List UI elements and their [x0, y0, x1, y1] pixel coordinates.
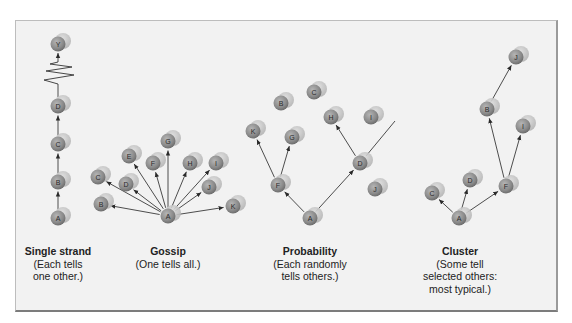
svg-text:D: D	[467, 177, 472, 184]
node-single-strand-Y: Y	[51, 33, 72, 52]
svg-text:F: F	[504, 183, 508, 190]
svg-text:Y: Y	[56, 41, 61, 48]
caption-description: (Some tell	[405, 258, 515, 271]
node-probability-G: G	[285, 126, 306, 145]
svg-text:I: I	[522, 123, 524, 130]
caption-gossip: Gossip(One tells all.)	[113, 245, 223, 270]
node-single-strand-B: B	[51, 171, 72, 190]
caption-description: (Each tells	[3, 258, 113, 271]
node-probability-I: I	[364, 106, 385, 125]
edge-probability-D-to-H	[336, 125, 355, 156]
svg-text:F: F	[151, 160, 155, 167]
svg-text:K: K	[231, 203, 236, 210]
svg-text:C: C	[95, 174, 100, 181]
edge-gossip-A-to-D	[134, 190, 162, 211]
node-probability-C: C	[307, 81, 328, 100]
node-cluster-C: C	[425, 182, 446, 201]
edge-probability-F-to-G	[280, 146, 289, 177]
svg-text:A: A	[457, 215, 462, 222]
svg-text:H: H	[187, 160, 192, 167]
node-gossip-A: A	[161, 205, 182, 224]
node-probability-H: H	[324, 106, 345, 125]
edge-cluster-A-to-D	[461, 189, 467, 210]
svg-text:B: B	[279, 100, 284, 107]
svg-text:A: A	[166, 213, 171, 220]
nodes-layer: ABCDYABCDEFGHIJKAFKGBCDHIJACDFBIJ	[51, 33, 537, 226]
edge-cluster-B-to-J	[491, 65, 511, 101]
caption-description: tells others.)	[255, 270, 365, 283]
node-cluster-A: A	[452, 207, 473, 226]
edge-probability-F-to-K	[257, 140, 274, 178]
edge-cluster-F-to-I	[508, 135, 520, 178]
svg-text:B: B	[99, 201, 104, 208]
edge-probability-A-to-D	[316, 170, 354, 212]
node-gossip-C: C	[91, 166, 112, 185]
node-gossip-I: I	[209, 152, 230, 171]
svg-text:G: G	[165, 138, 170, 145]
node-single-strand-A: A	[51, 207, 72, 226]
zigzag-break-icon	[44, 60, 74, 90]
caption-title: Single strand	[3, 245, 113, 258]
svg-text:D: D	[357, 160, 362, 167]
caption-single-strand: Single strand(Each tellsone other.)	[3, 245, 113, 283]
svg-text:I: I	[215, 160, 217, 167]
caption-cluster: Cluster(Some tellselected others:most ty…	[405, 245, 515, 295]
node-probability-J: J	[368, 178, 389, 197]
node-gossip-B: B	[94, 193, 115, 212]
node-probability-A: A	[303, 207, 324, 226]
node-probability-F: F	[271, 174, 292, 193]
svg-text:A: A	[56, 215, 61, 222]
node-probability-K: K	[246, 120, 267, 139]
caption-description: most typical.)	[405, 283, 515, 296]
svg-text:F: F	[276, 182, 280, 189]
svg-text:D: D	[55, 103, 60, 110]
node-gossip-G: G	[161, 130, 182, 149]
node-single-strand-D: D	[51, 95, 72, 114]
node-cluster-F: F	[499, 175, 520, 194]
edge-gossip-A-to-H	[171, 172, 186, 208]
svg-text:I: I	[370, 114, 372, 121]
edge-cluster-F-to-B	[489, 118, 504, 178]
caption-description: (One tells all.)	[113, 258, 223, 271]
svg-text:B: B	[56, 179, 61, 186]
caption-title: Cluster	[405, 245, 515, 258]
svg-text:G: G	[289, 134, 294, 141]
node-probability-D: D	[353, 152, 374, 171]
node-single-strand-C: C	[51, 133, 72, 152]
svg-text:J: J	[373, 186, 377, 193]
node-cluster-I: I	[516, 115, 537, 134]
node-probability-B: B	[274, 92, 295, 111]
caption-description: (Each randomly	[255, 258, 365, 271]
node-cluster-J: J	[509, 46, 530, 65]
node-gossip-H: H	[183, 152, 204, 171]
svg-text:B: B	[485, 106, 490, 113]
svg-text:C: C	[55, 141, 60, 148]
edge-cluster-A-to-C	[439, 199, 453, 212]
svg-text:E: E	[127, 153, 132, 160]
caption-title: Probability	[255, 245, 365, 258]
node-cluster-D: D	[463, 169, 484, 188]
caption-title: Gossip	[113, 245, 223, 258]
node-gossip-D: D	[119, 173, 140, 192]
edge-probability-A-to-F	[285, 192, 304, 212]
svg-text:K: K	[251, 128, 256, 135]
node-gossip-E: E	[122, 145, 143, 164]
node-gossip-F: F	[146, 152, 167, 171]
svg-text:C: C	[429, 190, 434, 197]
node-cluster-B: B	[480, 98, 501, 117]
svg-text:A: A	[308, 215, 313, 222]
node-gossip-K: K	[226, 195, 247, 214]
caption-description: selected others:	[405, 270, 515, 283]
svg-text:H: H	[328, 114, 333, 121]
svg-text:J: J	[207, 184, 211, 191]
svg-text:J: J	[514, 54, 518, 61]
caption-probability: Probability(Each randomlytells others.)	[255, 245, 365, 283]
svg-text:C: C	[311, 89, 316, 96]
edge-gossip-A-to-K	[176, 207, 223, 214]
edge-cluster-A-to-F	[466, 191, 498, 213]
edge-gossip-A-to-F	[156, 172, 166, 208]
edge-gossip-A-to-E	[134, 164, 163, 209]
node-gossip-J: J	[202, 176, 223, 195]
edge-probability-outgoing	[366, 121, 395, 156]
svg-text:D: D	[123, 181, 128, 188]
